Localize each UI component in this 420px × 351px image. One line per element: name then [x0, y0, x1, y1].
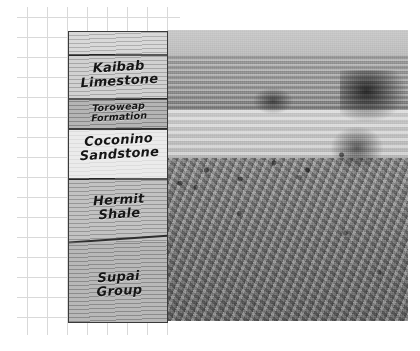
contact-line-coconino-top — [68, 128, 168, 130]
strat-layer-kaibab[interactable] — [68, 54, 168, 100]
contact-line-hermit-top — [68, 178, 168, 180]
strat-layer-hermit[interactable] — [68, 178, 168, 244]
contact-line-kaibab-top — [68, 54, 168, 56]
stratigraphic-column[interactable]: Kaibab Limestone Toroweap Formation Coco… — [68, 31, 168, 323]
bedding-lines — [68, 242, 168, 323]
photo-film-grain — [167, 30, 408, 321]
bedding-lines — [68, 54, 168, 100]
bedding-lines — [68, 98, 168, 130]
bedding-lines — [68, 128, 168, 180]
grand-canyon-photograph — [167, 30, 408, 321]
strat-layer-toroweap[interactable] — [68, 98, 168, 130]
strat-layer-coconino[interactable] — [68, 128, 168, 180]
strat-layer-supai[interactable] — [68, 242, 168, 323]
strat-layer-cap[interactable] — [68, 31, 168, 56]
bedding-lines — [68, 178, 168, 244]
stratigraphy-figure: Kaibab Limestone Toroweap Formation Coco… — [0, 0, 420, 351]
contact-line-toroweap-top — [68, 98, 168, 100]
bedding-lines — [68, 31, 168, 56]
